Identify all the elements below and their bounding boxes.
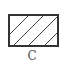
figure-caption: C bbox=[0, 49, 64, 63]
hatched-rectangle-figure: C bbox=[0, 0, 64, 67]
hatched-rectangle bbox=[8, 14, 59, 47]
